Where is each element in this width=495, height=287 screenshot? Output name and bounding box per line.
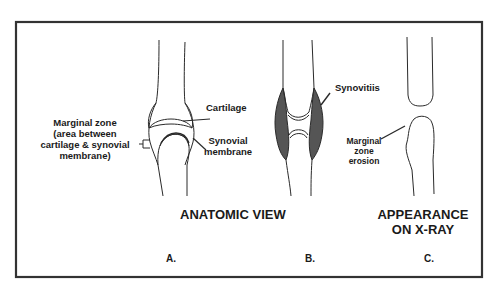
joint-diagram-figure: Marginal zone (area between cartilage & … [0, 0, 495, 287]
synovitis-label: Synovitiis [335, 83, 380, 94]
panel-label-c: C. [424, 253, 434, 265]
panel-b-synovitis-joint [275, 40, 330, 196]
panel-label-b: B. [305, 253, 315, 265]
marginal-zone-erosion-label: Marginal zone erosion [339, 137, 389, 166]
panel-a-normal-joint [139, 40, 210, 196]
xray-appearance-title: APPEARANCE ON X-RAY [368, 208, 478, 238]
panel-c-xray-joint [381, 37, 434, 196]
panel-label-a: A. [166, 253, 176, 265]
marginal-zone-label: Marginal zone (area between cartilage & … [26, 118, 144, 162]
anatomic-view-title: ANATOMIC VIEW [180, 208, 286, 223]
cartilage-label: Cartilage [206, 103, 247, 114]
synovial-membrane-label: Synovial membrane [204, 136, 252, 158]
